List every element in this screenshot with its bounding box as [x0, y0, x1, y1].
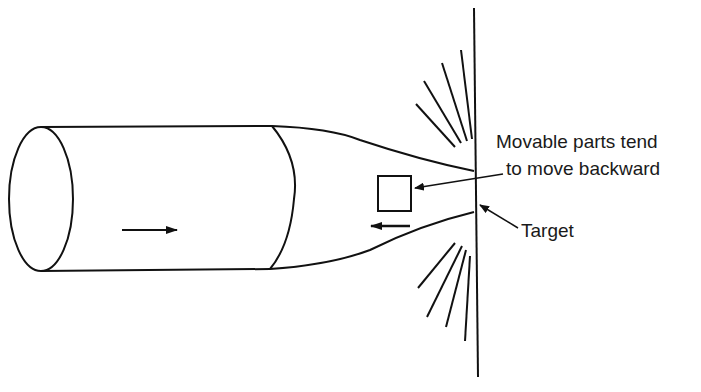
projectile-bottom-edge — [41, 269, 270, 271]
target-leader — [480, 205, 518, 228]
movable-parts-label-line1: Movable parts tend — [496, 131, 658, 152]
movable-parts-leader — [415, 174, 503, 188]
projectile-band — [270, 126, 295, 269]
projectile-nose-top — [272, 126, 474, 171]
movable-part — [378, 176, 411, 211]
projectile — [9, 126, 474, 271]
movable-parts-label-line2: to move backward — [506, 158, 660, 179]
target-plate — [474, 8, 478, 377]
projectile-rear-face — [9, 127, 73, 271]
lower-spray — [418, 243, 470, 341]
upper-spray — [416, 50, 472, 147]
target-label: Target — [521, 220, 575, 241]
projectile-top-edge — [41, 126, 272, 127]
impact-diagram: Movable parts tend to move backward Targ… — [0, 0, 701, 392]
projectile-nose-bottom — [270, 212, 474, 269]
